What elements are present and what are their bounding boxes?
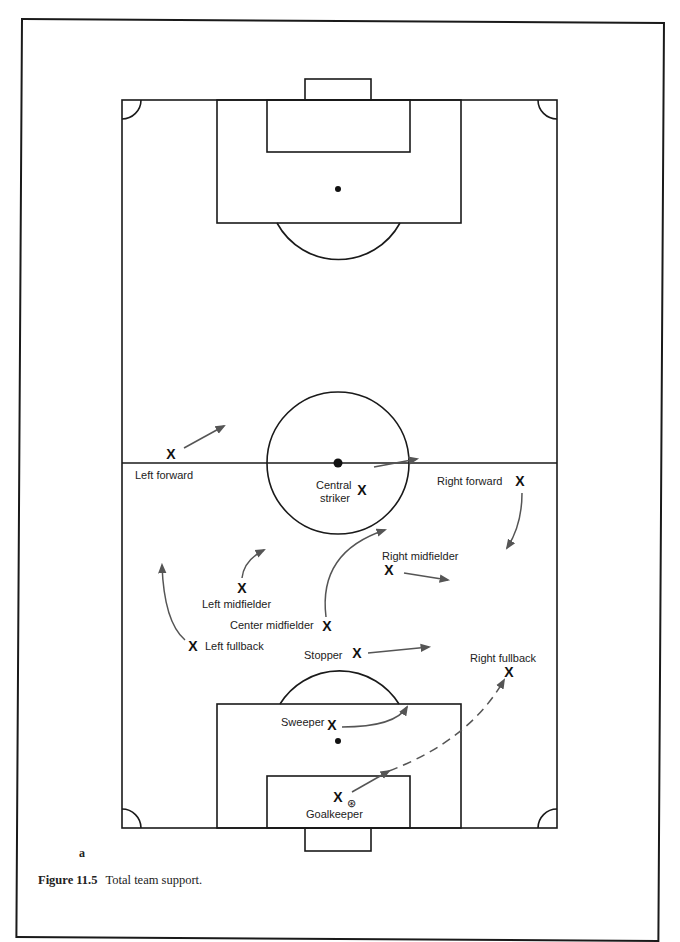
figure-caption: Figure 11.5Total team support. (38, 873, 202, 888)
label-right-fullback: Right fullback (470, 652, 536, 665)
arrow-left-fullback (162, 565, 185, 640)
label-central-striker-line2: striker (320, 492, 350, 505)
label-central-striker-line1: Central (316, 479, 351, 492)
bottom-penalty-arc (280, 671, 399, 704)
arrow-left-midfielder (242, 550, 264, 578)
player-marker-right-forward: X (515, 474, 524, 488)
center-spot (334, 459, 343, 468)
player-marker-sweeper: X (327, 718, 336, 732)
label-right-midfielder: Right midfielder (382, 550, 458, 563)
label-sweeper: Sweeper (281, 716, 324, 729)
player-marker-center-midfielder: X (322, 619, 331, 633)
arrow-right-midfielder (404, 573, 448, 580)
figure-number: Figure 11.5 (38, 873, 98, 887)
label-left-fullback: Left fullback (205, 640, 264, 653)
label-left-midfielder: Left midfielder (202, 598, 271, 611)
label-goalkeeper: Goalkeeper (306, 808, 363, 821)
player-marker-left-midfielder: X (237, 581, 246, 595)
corner-arc-bottom-left (122, 809, 141, 828)
top-penalty-arc (277, 223, 400, 260)
player-marker-goalkeeper: X (333, 790, 342, 804)
arrow-right-forward (507, 493, 522, 548)
top-penalty-spot (335, 186, 341, 192)
player-marker-right-midfielder: X (384, 563, 393, 577)
arrow-left-forward (184, 426, 224, 448)
player-marker-left-forward: X (166, 447, 175, 461)
player-marker-left-fullback: X (188, 639, 197, 653)
arrow-center-midfielder (325, 530, 385, 617)
label-left-forward: Left forward (135, 469, 193, 482)
top-goal-box (267, 100, 410, 152)
player-marker-stopper: X (352, 646, 361, 660)
arrow-pass-dashed (389, 680, 504, 771)
top-goal (305, 79, 371, 100)
label-right-forward: Right forward (437, 475, 502, 488)
bottom-goal (305, 828, 371, 851)
arrow-goalkeeper-pass (352, 771, 389, 792)
label-center-midfielder: Center midfielder (230, 619, 314, 632)
corner-arc-top-left (122, 100, 141, 119)
player-marker-right-fullback: X (504, 665, 513, 679)
bottom-penalty-spot (335, 738, 341, 744)
arrow-sweeper (342, 707, 407, 727)
top-penalty-box (217, 100, 461, 223)
figure-caption-text: Total team support. (106, 873, 203, 887)
panel-letter: a (79, 846, 85, 861)
arrow-stopper (368, 647, 429, 653)
corner-arc-top-right (538, 100, 557, 119)
label-stopper: Stopper (304, 649, 343, 662)
corner-arc-bottom-right (538, 809, 557, 828)
player-marker-central-striker: X (357, 483, 366, 497)
